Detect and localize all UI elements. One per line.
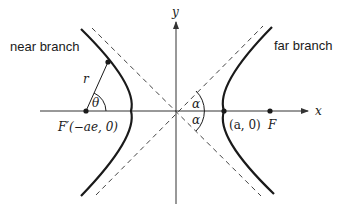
vertex-point: [221, 108, 226, 113]
focus-far-label: F: [267, 118, 277, 132]
alpha-lower-label: α: [192, 113, 200, 127]
alpha-upper-label: α: [192, 97, 200, 111]
x-axis-label: x: [315, 104, 322, 118]
near-branch-curve: [81, 29, 132, 196]
near-branch-label: near branch: [10, 39, 79, 54]
focus-far-point: [267, 108, 272, 113]
focus-near-label: F′(−ae, 0): [57, 120, 118, 134]
y-axis-label: y: [171, 5, 179, 19]
radius-label: r: [83, 72, 90, 86]
point-on-near-branch: [105, 59, 110, 64]
far-branch-label: far branch: [274, 38, 333, 53]
axes: [40, 22, 308, 204]
hyperbola-diagram: near branch far branch x y r θ α α F′(−a…: [0, 0, 338, 214]
theta-label: θ: [92, 96, 100, 110]
focus-near-point: [83, 108, 88, 113]
vertex-label: (a, 0): [229, 118, 261, 132]
